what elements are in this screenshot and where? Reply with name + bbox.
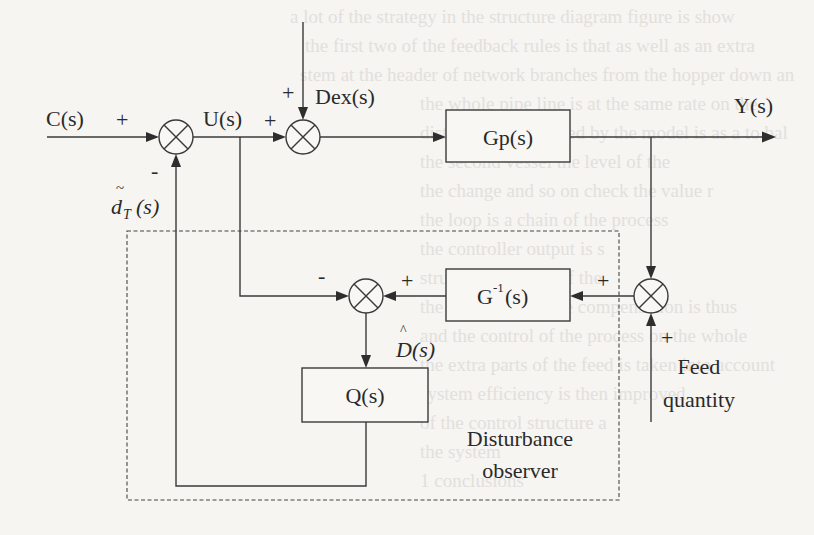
disturbance-label: Dex(s): [315, 84, 375, 109]
svg-text:(s): (s): [136, 194, 159, 219]
feed-label-line2: quantity: [663, 387, 735, 412]
summing-junction-4: [634, 279, 668, 313]
control-branch-line: [240, 137, 342, 296]
feed-label-line1: Feed: [678, 354, 721, 379]
arrowhead-icon: [646, 266, 656, 279]
block-diagram: C(s) + - U(s) + + Dex(s) Gp(s) Y(s) ~ d …: [0, 0, 814, 535]
arrowhead-icon: [273, 132, 286, 142]
arrowhead-icon: [146, 132, 159, 142]
compensation-label: ~ d T (s): [111, 180, 159, 222]
svg-text:d: d: [111, 194, 123, 219]
arrowhead-icon: [570, 291, 583, 301]
arrowhead-icon: [762, 132, 776, 143]
arrowhead-icon: [298, 107, 308, 120]
arrowhead-icon: [336, 291, 349, 301]
sign-sum4-output: +: [597, 268, 609, 293]
svg-text:G: G: [477, 284, 493, 309]
sign-sum2-control: +: [264, 108, 276, 133]
sign-sum1-feedback: -: [151, 158, 158, 183]
summing-junction-3: [349, 279, 383, 313]
svg-text:^: ^: [400, 323, 407, 338]
sign-sum3-control: -: [318, 263, 325, 288]
control-label: U(s): [203, 106, 242, 131]
sign-sum1-input: +: [116, 107, 128, 132]
summing-junction-2: [286, 120, 320, 154]
svg-text:D(s): D(s): [395, 337, 435, 362]
output-label: Y(s): [734, 93, 773, 118]
compensation-feedback-line: [176, 161, 366, 486]
sign-sum2-disturbance: +: [282, 80, 294, 105]
group-label-line2: observer: [482, 458, 558, 483]
summing-junction-1: [159, 120, 193, 154]
arrowhead-icon: [171, 154, 181, 167]
estimated-disturbance-label: ^ D(s): [395, 323, 435, 362]
svg-text:(s): (s): [505, 284, 528, 309]
arrowhead-icon: [433, 132, 446, 142]
diagram-canvas: a lot of the strategy in the structure d…: [0, 0, 814, 535]
sign-sum3-model: +: [401, 268, 413, 293]
arrowhead-icon: [383, 291, 396, 301]
svg-text:T: T: [123, 207, 132, 222]
arrowhead-icon: [361, 355, 371, 368]
group-label-line1: Disturbance: [467, 426, 573, 451]
plant-label: Gp(s): [483, 125, 533, 150]
sign-sum4-feed: +: [661, 325, 673, 350]
filter-label: Q(s): [345, 383, 384, 408]
arrowhead-icon: [646, 313, 656, 326]
svg-text:-1: -1: [493, 280, 504, 295]
input-label: C(s): [46, 106, 84, 131]
